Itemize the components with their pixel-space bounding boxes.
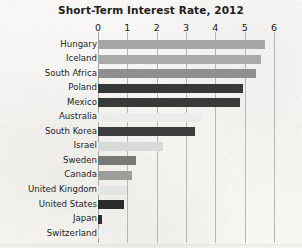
gridline-2 [157, 32, 158, 243]
x-tick-label-3: 3 [177, 23, 195, 33]
category-label-switzerland: Switzerland [0, 229, 97, 238]
bar-poland [98, 84, 243, 93]
category-label-israel: Israel [0, 141, 97, 150]
bar-mexico [98, 98, 240, 107]
gridline-3 [186, 32, 187, 243]
category-label-mexico: Mexico [0, 98, 97, 107]
x-tick-label-1: 1 [118, 23, 136, 33]
x-tick-label-2: 2 [148, 23, 166, 33]
category-label-south-africa: South Africa [0, 69, 97, 78]
gridline-6 [274, 32, 275, 243]
bar-united-kingdom [98, 186, 127, 195]
category-label-canada: Canada [0, 170, 97, 179]
bar-japan [98, 215, 102, 224]
category-label-south-korea: South Korea [0, 127, 97, 136]
x-tick-label-0: 0 [89, 23, 107, 33]
category-label-united-kingdom: United Kingdom [0, 185, 97, 194]
page-bottom-edge [0, 244, 302, 248]
category-label-poland: Poland [0, 83, 97, 92]
bar-israel [98, 142, 163, 151]
bar-canada [98, 171, 132, 180]
category-label-australia: Australia [0, 112, 97, 121]
chart-figure: Short-Term Interest Rate, 2012 0123456 H… [0, 0, 302, 248]
gridline-4 [215, 32, 216, 243]
category-label-sweden: Sweden [0, 156, 97, 165]
bar-switzerland [98, 229, 99, 238]
x-tick-label-6: 6 [265, 23, 283, 33]
category-label-japan: Japan [0, 214, 97, 223]
plot-area: 0123456 HungaryIcelandSouth AfricaPoland… [0, 0, 302, 248]
bar-united-states [98, 200, 124, 209]
category-label-hungary: Hungary [0, 40, 97, 49]
bar-sweden [98, 156, 136, 165]
bar-south-korea [98, 127, 195, 136]
gridline-1 [127, 32, 128, 243]
category-label-iceland: Iceland [0, 54, 97, 63]
x-tick-label-4: 4 [206, 23, 224, 33]
gridline-5 [245, 32, 246, 243]
gridline-0 [98, 32, 99, 243]
bar-iceland [98, 55, 261, 64]
x-tick-label-5: 5 [236, 23, 254, 33]
bar-hungary [98, 40, 265, 49]
bar-australia [98, 113, 201, 122]
category-label-united-states: United States [0, 200, 97, 209]
bar-south-africa [98, 69, 256, 78]
